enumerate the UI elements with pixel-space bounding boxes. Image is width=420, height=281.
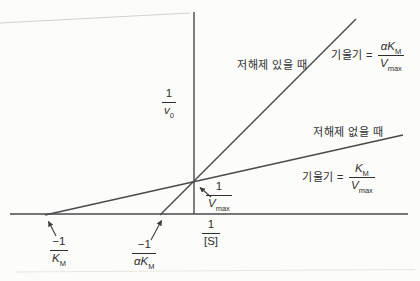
slope2-V-sub: max [359,186,373,195]
yint-numerator: 1 [206,181,232,195]
akm-numerator: −1 [132,239,156,253]
x-label-denominator: [S] [202,233,220,248]
akm-K-sub: M [148,262,154,271]
y-label-sub: 0 [170,111,174,120]
y-axis-label: 1 v0 [162,88,192,116]
slope2-K: K [355,162,363,174]
x-label-numerator: 1 [202,219,220,233]
x-intercept-akm-label: −1 αKM [132,239,166,267]
slope2-prefix: 기울기 = [302,172,344,183]
slope1-V: V [380,57,388,69]
arrow-to-akm-intercept [151,221,162,241]
yint-V: V [208,197,216,209]
slope-formula-with-inhibitor: 기울기 = αKM Vmax [331,41,404,69]
label-with-inhibitor: 저해제 있을 때 [237,60,307,71]
scan-artifact-top [0,13,190,23]
y-intercept-label: 1 Vmax [206,181,236,209]
label-without-inhibitor: 저해제 없을 때 [313,127,383,138]
y-label-numerator: 1 [162,88,176,102]
y-label-v: v [164,104,170,116]
slope1-V-sub: max [388,64,402,73]
slope1-K-sub: M [395,47,401,56]
km-K: K [52,252,60,264]
slope-formula-without-inhibitor: 기울기 = KM Vmax [302,163,375,191]
yint-V-sub: max [216,204,230,213]
lineweaver-burk-figure: 1 v0 1 [S] 저해제 있을 때 기울기 = αKM Vmax 저해제 없… [0,0,420,281]
scan-artifact-bottom [15,270,415,273]
km-numerator: −1 [50,236,68,250]
km-K-sub: M [60,259,66,268]
x-axis-label: 1 [S] [202,219,232,247]
slope1-K: K [387,40,395,52]
arrow-to-km-intercept [49,222,57,237]
x-intercept-km-label: −1 KM [50,236,80,264]
slope2-V: V [351,179,359,191]
slope1-prefix: 기울기 = [331,50,373,61]
slope2-K-sub: M [363,169,369,178]
